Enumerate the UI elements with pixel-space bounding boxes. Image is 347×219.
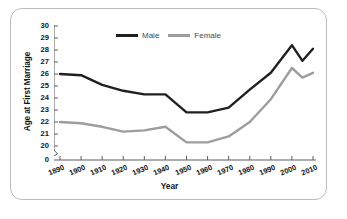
y-tick-label: 20 [41, 142, 49, 150]
y-tick-label: 23 [41, 106, 49, 114]
x-tick-label: 1900 [68, 163, 87, 178]
x-tick-label: 1890 [47, 163, 66, 178]
y-axis-break-icon [54, 150, 58, 159]
x-tick-label: 1970 [216, 163, 235, 178]
y-tick-label: 24 [41, 94, 49, 102]
y-tick-label: 29 [41, 34, 49, 42]
y-tick-label: 22 [41, 118, 49, 126]
y-axis-tick-labels: 30292827262524232221200 [29, 9, 49, 201]
y-tick-label: 0 [45, 156, 49, 164]
x-tick-label: 2000 [279, 163, 298, 178]
x-tick-label: 1940 [152, 163, 171, 178]
x-tick-label: 1960 [195, 163, 214, 178]
x-tick-label: 1930 [131, 163, 150, 178]
y-tick-label: 27 [41, 58, 49, 66]
y-tick-label: 25 [41, 82, 49, 90]
x-tick-label: 1980 [237, 163, 256, 178]
y-tick-label: 21 [41, 130, 49, 138]
x-tick-label: 1990 [258, 163, 277, 178]
series-line-male [60, 45, 313, 112]
y-tick-label: 26 [41, 70, 49, 78]
y-tick-label: 28 [41, 46, 49, 54]
x-tick-label: 2010 [300, 163, 319, 178]
chart-screenshot: Age at First Marriage 302928272625242322… [0, 0, 347, 219]
x-tick-label: 1910 [89, 163, 108, 178]
series-line-female [60, 68, 313, 142]
x-tick-label: 1950 [174, 163, 193, 178]
plot-area [54, 23, 317, 164]
line-chart-svg [54, 23, 317, 164]
x-axis-title: Year [11, 181, 328, 191]
chart-frame: Age at First Marriage 302928272625242322… [10, 8, 327, 200]
x-tick-label: 1920 [110, 163, 129, 178]
y-tick-label: 30 [41, 22, 49, 30]
